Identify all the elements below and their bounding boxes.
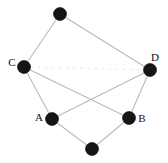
graph-node-A[interactable] [46, 113, 59, 126]
node-label-B: B [138, 112, 145, 124]
graph-node-D[interactable] [144, 64, 157, 77]
graph-node-top[interactable] [54, 8, 67, 21]
graph-node-bottom[interactable] [86, 143, 99, 156]
graph-canvas: CDAB [0, 0, 168, 163]
node-label-D: D [151, 51, 159, 63]
graph-node-C[interactable] [18, 61, 31, 74]
graph-figure: CDAB [0, 0, 168, 163]
figure-background [0, 0, 168, 163]
node-label-C: C [8, 56, 15, 68]
node-label-A: A [35, 111, 43, 123]
graph-node-B[interactable] [123, 112, 136, 125]
